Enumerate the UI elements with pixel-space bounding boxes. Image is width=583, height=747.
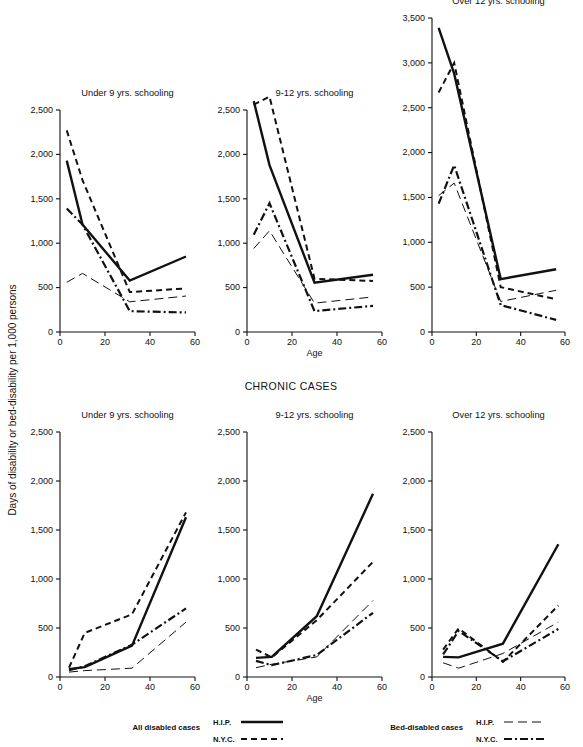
series-top-9to12-all_nyc bbox=[254, 97, 373, 281]
y-tick-label: 1,000 bbox=[402, 237, 425, 247]
series-bottom-under9-all_nyc bbox=[69, 512, 186, 667]
x-tick-label: 0 bbox=[429, 682, 434, 692]
series-bottom-9to12-all_hip bbox=[256, 494, 373, 658]
panel-bottom-9to12: 9-12 yrs. schooling05001,0001,5002,0002,… bbox=[217, 410, 387, 703]
x-axis-title-bottom-9to12: Age bbox=[306, 693, 322, 703]
y-tick-label: 1,500 bbox=[217, 194, 240, 204]
y-tick-label: 2,000 bbox=[402, 147, 425, 157]
x-tick-label: 20 bbox=[100, 337, 110, 347]
panel-title-top-9to12: 9-12 yrs. schooling bbox=[275, 88, 353, 98]
x-tick-label: 40 bbox=[145, 682, 155, 692]
legend-entry-label-1-0: H.I.P. bbox=[476, 718, 494, 727]
x-tick-label: 40 bbox=[332, 337, 342, 347]
legend-entry-label-0-0: H.I.P. bbox=[213, 718, 231, 727]
series-top-9to12-bed_nyc bbox=[254, 203, 373, 311]
y-tick-label: 1,000 bbox=[30, 574, 53, 584]
legend-entry-label-0-1: N.Y.C. bbox=[213, 735, 235, 744]
legend-group-label-0: All disabled cases bbox=[132, 723, 200, 732]
y-tick-label: 1,000 bbox=[217, 238, 240, 248]
y-tick-label: 500 bbox=[225, 282, 240, 292]
x-tick-label: 60 bbox=[560, 682, 570, 692]
y-tick-label: 3,500 bbox=[402, 13, 425, 23]
panel-title-bottom-under9: Under 9 yrs. schooling bbox=[81, 410, 174, 420]
x-tick-label: 20 bbox=[100, 682, 110, 692]
panel-top-under9: Under 9 yrs. schooling05001,0001,5002,00… bbox=[30, 88, 200, 347]
panel-top-9to12: 9-12 yrs. schooling05001,0001,5002,0002,… bbox=[217, 88, 387, 358]
y-tick-label: 2,500 bbox=[402, 427, 425, 437]
legend-group-label-1: Bed-disabled cases bbox=[390, 723, 463, 732]
y-tick-label: 2,500 bbox=[217, 105, 240, 115]
y-tick-label: 2,000 bbox=[402, 476, 425, 486]
series-bottom-9to12-all_nyc bbox=[256, 562, 373, 658]
panel-title-top-over12: Over 12 yrs. schooling bbox=[452, 0, 545, 6]
series-bottom-under9-all_hip bbox=[69, 517, 186, 669]
x-tick-label: 0 bbox=[244, 337, 249, 347]
x-tick-label: 20 bbox=[471, 337, 481, 347]
y-tick-label: 500 bbox=[410, 282, 425, 292]
x-tick-label: 20 bbox=[287, 337, 297, 347]
x-tick-label: 0 bbox=[57, 337, 62, 347]
y-tick-label: 2,000 bbox=[217, 476, 240, 486]
axis-lines-bottom-under9 bbox=[60, 432, 195, 677]
multi-panel-line-chart: Under 9 yrs. schooling05001,0001,5002,00… bbox=[0, 0, 583, 747]
y-axis-label: Days of disability or bed-disability per… bbox=[7, 284, 18, 515]
x-axis-title-top-9to12: Age bbox=[306, 348, 322, 358]
y-tick-label: 0 bbox=[420, 672, 425, 682]
series-top-under9-all_nyc bbox=[67, 130, 186, 292]
panel-bottom-under9: Under 9 yrs. schooling05001,0001,5002,00… bbox=[30, 410, 200, 692]
series-top-under9-bed_nyc bbox=[67, 209, 186, 313]
y-tick-label: 500 bbox=[225, 623, 240, 633]
y-tick-label: 500 bbox=[38, 282, 53, 292]
y-tick-label: 1,500 bbox=[402, 192, 425, 202]
x-tick-label: 20 bbox=[471, 682, 481, 692]
x-tick-label: 60 bbox=[560, 337, 570, 347]
panel-top-over12: Over 12 yrs. schooling05001,0001,5002,00… bbox=[402, 0, 570, 347]
x-tick-label: 20 bbox=[287, 682, 297, 692]
y-tick-label: 2,500 bbox=[30, 427, 53, 437]
y-tick-label: 1,000 bbox=[217, 574, 240, 584]
x-tick-label: 60 bbox=[377, 337, 387, 347]
y-tick-label: 3,000 bbox=[402, 58, 425, 68]
axis-lines-bottom-9to12 bbox=[247, 432, 382, 677]
y-tick-label: 2,000 bbox=[30, 149, 53, 159]
series-top-under9-all_hip bbox=[67, 161, 186, 281]
series-top-over12-all_hip bbox=[439, 28, 556, 279]
x-tick-label: 0 bbox=[244, 682, 249, 692]
series-top-9to12-all_hip bbox=[254, 101, 373, 283]
panel-title-top-under9: Under 9 yrs. schooling bbox=[81, 88, 174, 98]
y-tick-label: 0 bbox=[48, 672, 53, 682]
y-tick-label: 2,000 bbox=[217, 149, 240, 159]
x-tick-label: 40 bbox=[332, 682, 342, 692]
y-tick-label: 2,500 bbox=[30, 105, 53, 115]
y-tick-label: 1,500 bbox=[402, 525, 425, 535]
x-tick-label: 60 bbox=[190, 337, 200, 347]
x-tick-label: 60 bbox=[190, 682, 200, 692]
panel-title-bottom-over12: Over 12 yrs. schooling bbox=[452, 410, 545, 420]
y-tick-label: 2,000 bbox=[30, 476, 53, 486]
series-bottom-over12-all_hip bbox=[443, 544, 558, 657]
y-tick-label: 1,000 bbox=[402, 574, 425, 584]
series-bottom-under9-bed_nyc bbox=[69, 608, 186, 670]
axis-lines-top-9to12 bbox=[247, 110, 382, 332]
x-tick-label: 0 bbox=[429, 337, 434, 347]
x-tick-label: 40 bbox=[516, 682, 526, 692]
x-tick-label: 40 bbox=[516, 337, 526, 347]
y-tick-label: 2,500 bbox=[402, 103, 425, 113]
x-tick-label: 60 bbox=[377, 682, 387, 692]
series-top-over12-bed_hip bbox=[439, 183, 556, 301]
y-tick-label: 500 bbox=[410, 623, 425, 633]
y-tick-label: 1,500 bbox=[30, 525, 53, 535]
series-top-9to12-bed_hip bbox=[254, 231, 373, 303]
figure-root: Under 9 yrs. schooling05001,0001,5002,00… bbox=[0, 0, 583, 747]
legend-entry-label-1-1: N.Y.C. bbox=[476, 735, 498, 744]
y-tick-label: 1,500 bbox=[217, 525, 240, 535]
series-bottom-over12-all_nyc bbox=[443, 605, 558, 661]
y-tick-label: 1,000 bbox=[30, 238, 53, 248]
panel-bottom-over12: Over 12 yrs. schooling05001,0001,5002,00… bbox=[402, 410, 570, 692]
y-tick-label: 500 bbox=[38, 623, 53, 633]
y-tick-label: 0 bbox=[48, 327, 53, 337]
series-bottom-9to12-bed_hip bbox=[256, 601, 373, 668]
y-tick-label: 0 bbox=[235, 672, 240, 682]
chronic-cases-section-title: CHRONIC CASES bbox=[245, 380, 338, 392]
y-tick-label: 0 bbox=[420, 327, 425, 337]
